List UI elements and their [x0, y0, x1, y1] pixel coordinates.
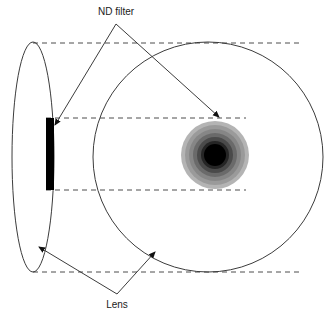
optical-setup-diagram: ND filter Lens	[0, 0, 332, 319]
nd-filter-leader-line-right	[116, 24, 219, 117]
spot-core	[204, 144, 226, 166]
lens-leader-line-right	[117, 252, 155, 294]
dashed-guide-lines	[33, 43, 300, 272]
nd-filter-leader	[55, 24, 219, 125]
defocused-spot	[181, 121, 249, 189]
lens-leader	[39, 247, 155, 294]
nd-filter-label: ND filter	[98, 6, 135, 17]
lens-label: Lens	[106, 299, 128, 310]
lens-leader-line-left	[39, 247, 117, 294]
nd-filter-leader-line-left	[55, 24, 116, 125]
nd-filter-rect	[46, 118, 54, 190]
diagram-canvas: ND filter Lens	[0, 0, 332, 319]
